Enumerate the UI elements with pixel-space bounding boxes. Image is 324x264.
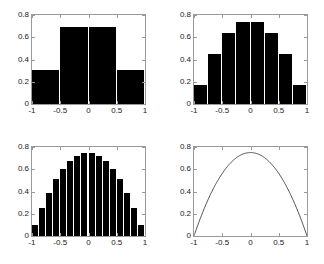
x-tick-label: 0	[86, 107, 90, 115]
x-tick-mark-top	[194, 147, 195, 150]
x-tick-mark	[145, 233, 146, 236]
y-tick-mark	[32, 104, 35, 105]
y-tick-mark-right	[142, 169, 145, 170]
subplot-top-left: 00.20.40.60.8 -1-0.500.51	[0, 0, 162, 132]
plot-area-bottom-left	[32, 147, 145, 236]
y-tick-mark	[194, 169, 197, 170]
x-tick-label: -0.5	[215, 107, 229, 115]
histogram-bar	[60, 27, 87, 104]
histogram-bar	[46, 193, 52, 236]
plot-area-top-left	[32, 15, 145, 104]
y-tick-mark-right	[142, 37, 145, 38]
y-tick-label: 0.2	[18, 78, 29, 86]
figure-canvas: 00.20.40.60.8 -1-0.500.51 00.20.40.60.8 …	[0, 0, 324, 264]
y-tick-label: 0.6	[180, 165, 191, 173]
histogram-bar	[265, 33, 278, 104]
x-tick-mark	[279, 101, 280, 104]
x-tick-label: -1	[28, 239, 35, 247]
histogram-bar	[194, 85, 207, 104]
y-tick-mark-right	[304, 60, 307, 61]
x-tick-mark-top	[222, 15, 223, 18]
y-tick-mark	[194, 214, 197, 215]
histogram-bar	[89, 27, 116, 104]
y-tick-mark	[194, 82, 197, 83]
x-tick-label: 1	[143, 107, 147, 115]
x-tick-mark	[89, 233, 90, 236]
y-tick-mark-right	[142, 214, 145, 215]
y-tick-label: 0.4	[18, 188, 29, 196]
y-tick-label: 0.2	[180, 210, 191, 218]
x-tick-label: -0.5	[53, 107, 67, 115]
x-tick-mark	[194, 233, 195, 236]
y-tick-label: 0.2	[180, 78, 191, 86]
x-tick-mark	[222, 233, 223, 236]
x-tick-mark	[145, 101, 146, 104]
histogram-bar	[32, 70, 59, 104]
y-tick-label: 0.6	[18, 33, 29, 41]
y-tick-mark-right	[304, 169, 307, 170]
plot-area-top-right	[194, 15, 307, 104]
x-tick-mark	[251, 101, 252, 104]
x-tick-mark-top	[89, 15, 90, 18]
subplot-bottom-left: 00.20.40.60.8 -1-0.500.51	[0, 132, 162, 264]
x-tick-mark	[194, 101, 195, 104]
x-tick-mark-top	[307, 15, 308, 18]
histogram-bar	[89, 153, 95, 236]
x-tick-mark-top	[145, 147, 146, 150]
x-tick-label: 0	[248, 107, 252, 115]
x-tick-mark	[117, 101, 118, 104]
histogram-bar	[236, 22, 249, 104]
x-tick-mark	[32, 101, 33, 104]
density-curve	[194, 147, 307, 236]
y-tick-label: 0.4	[180, 56, 191, 64]
y-tick-mark	[194, 192, 197, 193]
x-tick-label: 0.5	[273, 107, 284, 115]
x-tick-label: -1	[190, 107, 197, 115]
histogram-bar	[74, 156, 80, 236]
x-tick-mark	[60, 101, 61, 104]
histogram-bar	[293, 85, 306, 104]
x-tick-label: 0	[86, 239, 90, 247]
plot-box-bottom-left: 00.20.40.60.8 -1-0.500.51	[31, 146, 146, 237]
x-tick-label: 1	[143, 239, 147, 247]
y-tick-label: 0.8	[180, 11, 191, 19]
y-tick-mark-right	[142, 192, 145, 193]
x-tick-mark-top	[279, 15, 280, 18]
y-tick-label: 0.8	[18, 11, 29, 19]
x-tick-mark	[222, 101, 223, 104]
y-tick-mark-right	[304, 236, 307, 237]
histogram-bar	[39, 208, 45, 236]
y-tick-mark-right	[304, 82, 307, 83]
x-tick-label: 1	[305, 107, 309, 115]
x-tick-label: -0.5	[215, 239, 229, 247]
histogram-bar	[117, 179, 123, 236]
y-tick-mark	[194, 60, 197, 61]
histogram-bar	[103, 161, 109, 236]
x-tick-mark-top	[307, 147, 308, 150]
plot-box-bottom-right: 00.20.40.60.8 -1-0.500.51	[193, 146, 308, 237]
histogram-bar	[251, 22, 264, 104]
histogram-bar	[138, 225, 144, 236]
histogram-bar	[131, 208, 137, 236]
y-tick-mark	[32, 214, 35, 215]
x-tick-mark-top	[89, 147, 90, 150]
histogram-bar	[222, 33, 235, 104]
y-tick-mark	[32, 37, 35, 38]
histogram-bar	[208, 54, 221, 104]
y-tick-label: 0.8	[18, 143, 29, 151]
x-tick-mark	[307, 233, 308, 236]
x-tick-mark-top	[32, 15, 33, 18]
x-tick-mark-top	[194, 15, 195, 18]
histogram-bar	[96, 156, 102, 236]
histogram-bar	[81, 153, 87, 236]
y-tick-mark	[32, 60, 35, 61]
x-tick-mark	[60, 233, 61, 236]
histogram-bar	[67, 161, 73, 236]
y-tick-mark	[32, 169, 35, 170]
x-tick-mark	[117, 233, 118, 236]
y-tick-mark-right	[142, 82, 145, 83]
y-tick-mark-right	[304, 192, 307, 193]
x-tick-label: 0.5	[111, 107, 122, 115]
subplot-top-right: 00.20.40.60.8 -1-0.500.51	[162, 0, 324, 132]
y-tick-mark	[194, 236, 197, 237]
